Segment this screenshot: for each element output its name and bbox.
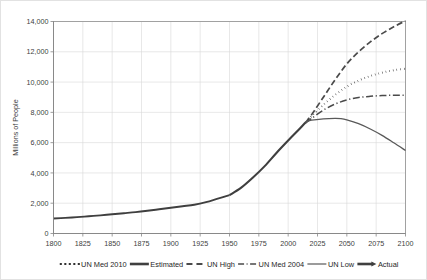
x-axis-tick-label: 1900 (163, 239, 179, 248)
legend-marker-arrowhead-icon (371, 261, 376, 266)
x-axis-tick-label: 2025 (310, 239, 326, 248)
legend-item-un-med-2010[interactable]: UN Med 2010 (61, 260, 127, 269)
series-line-un-med-2010 (306, 69, 406, 122)
y-axis-tick-label: 2,000 (31, 199, 49, 208)
x-axis-tick-label: 1850 (104, 239, 120, 248)
x-axis-tick-label: 1875 (134, 239, 150, 248)
x-axis-tick-label: 2000 (280, 239, 296, 248)
population-projection-chart: 02,0004,0006,0008,00010,00012,00014,0001… (0, 0, 427, 280)
series-line-un-high (306, 21, 406, 122)
legend-label-un-low: UN Low (328, 260, 355, 269)
x-axis-tick-label: 1825 (75, 239, 91, 248)
legend-item-actual[interactable]: Actual (357, 260, 398, 269)
y-axis-tick-label: 0 (45, 229, 49, 238)
y-axis-tick-label: 4,000 (31, 169, 49, 178)
y-axis-tick-label: 10,000 (27, 78, 49, 87)
legend-item-un-low[interactable]: UN Low (307, 260, 354, 269)
series-line-un-low (306, 118, 406, 150)
legend-label-actual: Actual (378, 260, 399, 269)
legend-label-estimated: Estimated (150, 260, 183, 269)
y-axis-tick-label: 6,000 (31, 138, 49, 147)
legend-item-estimated[interactable]: Estimated (130, 260, 183, 269)
y-axis-tick-label: 8,000 (31, 108, 49, 117)
x-axis-tick-label: 1925 (192, 239, 208, 248)
y-axis-tick-label: 12,000 (27, 47, 49, 56)
series-line-actual (230, 122, 306, 195)
y-axis-tick-label: 14,000 (27, 17, 49, 26)
x-axis-tick-label: 1950 (222, 239, 238, 248)
legend-label-un-med-2004: UN Med 2004 (259, 260, 305, 269)
x-axis-tick-label: 2050 (339, 239, 355, 248)
x-axis-tick-label: 2075 (368, 239, 384, 248)
x-axis-tick-label: 1800 (46, 239, 62, 248)
chart-canvas: 02,0004,0006,0008,00010,00012,00014,0001… (1, 1, 427, 280)
x-axis-tick-label: 1975 (251, 239, 267, 248)
legend-item-un-high[interactable]: UN High (186, 260, 234, 269)
x-axis-tick-label: 2100 (398, 239, 414, 248)
y-axis-title: Millions of People (11, 99, 20, 155)
legend-label-un-med-2010: UN Med 2010 (81, 260, 127, 269)
chart-plot-area: 02,0004,0006,0008,00010,00012,00014,0001… (1, 1, 427, 280)
legend-label-un-high: UN High (207, 260, 235, 269)
legend-item-un-med-2004[interactable]: UN Med 2004 (238, 260, 304, 269)
